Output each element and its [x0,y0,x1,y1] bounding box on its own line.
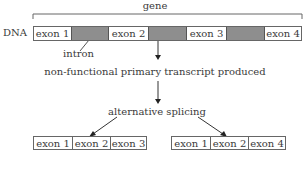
mrna-right-exon-1: exon 1 [172,137,210,149]
intron-label: intron [63,48,94,59]
dna-label: DNA [3,27,27,38]
mrna-right-exon-4: exon 4 [248,137,285,149]
gene-label: gene [143,0,168,11]
dna-exon-2: exon 2 [109,27,148,40]
mrna-left-exon-2: exon 2 [72,137,110,149]
dna-intron-2 [148,27,187,40]
dna-exon-4: exon 4 [265,27,301,40]
mrna-left: exon 1 exon 2 exon 3 [33,136,147,150]
mrna-right: exon 1 exon 2 exon 4 [171,136,286,150]
dna-intron-1 [71,27,109,40]
dna-bar: exon 1 exon 2 exon 3 exon 4 [33,26,302,41]
mrna-right-exon-2: exon 2 [210,137,248,149]
dna-exon-3: exon 3 [187,27,226,40]
mrna-left-exon-3: exon 3 [110,137,146,149]
mrna-left-exon-1: exon 1 [34,137,72,149]
step-primary-transcript: non-functional primary transcript produc… [44,66,265,77]
dna-exon-1: exon 1 [34,27,71,40]
dna-intron-3 [226,27,265,40]
step-alternative-splicing: alternative splicing [108,106,206,117]
